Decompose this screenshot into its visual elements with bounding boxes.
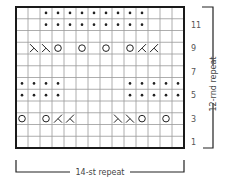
stitch-repeat-bracket: 14-st repeat bbox=[16, 160, 184, 177]
purl-dot-icon bbox=[141, 12, 144, 15]
ssk-decrease-icon bbox=[126, 115, 134, 123]
purl-dot-icon bbox=[177, 94, 180, 97]
ssk-decrease-icon bbox=[114, 115, 122, 123]
purl-dot-icon bbox=[81, 12, 84, 15]
yarn-over-icon bbox=[19, 115, 26, 122]
purl-dot-icon bbox=[153, 94, 156, 97]
purl-dot-icon bbox=[93, 12, 96, 15]
k2tog-decrease-icon bbox=[138, 44, 146, 52]
ssk-decrease-icon bbox=[42, 44, 50, 52]
yarn-over-icon bbox=[55, 45, 62, 52]
purl-dot-icon bbox=[33, 94, 36, 97]
purl-dot-icon bbox=[105, 12, 108, 15]
row-number-label: 11 bbox=[191, 21, 201, 30]
round-repeat-label: 12-rnd repeat bbox=[209, 57, 218, 112]
purl-dot-icon bbox=[117, 23, 120, 26]
row-number-label: 1 bbox=[191, 138, 196, 147]
purl-dot-icon bbox=[57, 12, 60, 15]
purl-dot-icon bbox=[153, 82, 156, 85]
purl-dot-icon bbox=[141, 94, 144, 97]
grid-lines bbox=[16, 7, 184, 148]
ssk-decrease-icon bbox=[30, 44, 38, 52]
yarn-over-icon bbox=[103, 45, 110, 52]
k2tog-decrease-icon bbox=[150, 44, 158, 52]
purl-dot-icon bbox=[45, 94, 48, 97]
purl-dot-icon bbox=[105, 23, 108, 26]
stitch-repeat-label: 14-st repeat bbox=[76, 168, 125, 177]
yarn-over-icon bbox=[163, 115, 170, 122]
purl-dot-icon bbox=[129, 94, 132, 97]
purl-dot-icon bbox=[129, 82, 132, 85]
purl-dot-icon bbox=[57, 82, 60, 85]
round-repeat-bracket: 12-rnd repeat bbox=[202, 7, 218, 148]
row-number-label: 5 bbox=[191, 91, 196, 100]
purl-dot-icon bbox=[129, 23, 132, 26]
purl-dot-icon bbox=[33, 82, 36, 85]
knitting-chart: 1357911 12-rnd repeat 14-st repeat bbox=[0, 0, 231, 186]
purl-dot-icon bbox=[141, 23, 144, 26]
purl-dot-icon bbox=[57, 94, 60, 97]
yarn-over-icon bbox=[79, 45, 86, 52]
purl-dot-icon bbox=[165, 94, 168, 97]
purl-dot-icon bbox=[117, 12, 120, 15]
row-labels: 1357911 bbox=[191, 21, 201, 148]
row-number-label: 3 bbox=[191, 115, 196, 124]
purl-dot-icon bbox=[45, 23, 48, 26]
purl-dot-icon bbox=[69, 12, 72, 15]
purl-dot-icon bbox=[93, 23, 96, 26]
yarn-over-icon bbox=[139, 115, 146, 122]
purl-dot-icon bbox=[21, 94, 24, 97]
chart-cells bbox=[19, 12, 180, 123]
k2tog-decrease-icon bbox=[66, 115, 74, 123]
yarn-over-icon bbox=[43, 115, 50, 122]
purl-dot-icon bbox=[45, 82, 48, 85]
k2tog-decrease-icon bbox=[54, 115, 62, 123]
purl-dot-icon bbox=[165, 82, 168, 85]
purl-dot-icon bbox=[129, 12, 132, 15]
purl-dot-icon bbox=[177, 82, 180, 85]
purl-dot-icon bbox=[21, 82, 24, 85]
purl-dot-icon bbox=[81, 23, 84, 26]
purl-dot-icon bbox=[141, 82, 144, 85]
row-number-label: 9 bbox=[191, 44, 196, 53]
purl-dot-icon bbox=[57, 23, 60, 26]
row-number-label: 7 bbox=[191, 68, 196, 77]
purl-dot-icon bbox=[45, 12, 48, 15]
purl-dot-icon bbox=[69, 23, 72, 26]
yarn-over-icon bbox=[127, 45, 134, 52]
